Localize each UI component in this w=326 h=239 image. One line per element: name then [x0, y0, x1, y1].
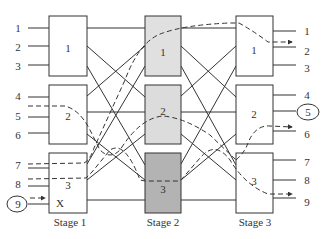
stage3-switch-2-label: 2: [251, 108, 257, 120]
input-label-4: 4: [15, 90, 21, 102]
input-labels: 1 2 3 4 5 6 7 8 9: [7, 22, 27, 212]
blocked-x-marker: X: [56, 197, 64, 209]
input-lines: [28, 28, 49, 204]
output-lines: [273, 31, 296, 198]
interstage-links-1-2: [87, 28, 145, 200]
output-label-2: 2: [304, 45, 310, 57]
input-label-8: 8: [15, 178, 21, 190]
stage1-switch-3-label: 3: [65, 179, 71, 191]
input-label-6: 6: [15, 129, 21, 141]
stage2-switch-2-label: 2: [160, 105, 166, 117]
stage3-caption: Stage 3: [239, 216, 272, 228]
output-label-8: 8: [304, 174, 310, 186]
input-label-9: 9: [15, 198, 21, 210]
input-label-3: 3: [15, 60, 21, 72]
input-label-7: 7: [15, 159, 21, 171]
stage1: 1 2 3 X: [49, 16, 87, 213]
output-label-5: 5: [305, 106, 311, 118]
output-label-4: 4: [304, 89, 310, 101]
output-labels: 1 2 3 4 5 6 7 8 9: [297, 25, 319, 208]
interstage-links-2-3: [181, 28, 236, 200]
stage2-switch-3-label: 3: [160, 183, 166, 195]
stage2-caption: Stage 2: [147, 216, 180, 228]
output-label-6: 6: [304, 128, 310, 140]
stage1-switch-1-label: 1: [65, 42, 71, 54]
output-label-1: 1: [304, 25, 310, 37]
stage1-caption: Stage 1: [54, 216, 87, 228]
input-label-5: 5: [15, 110, 21, 122]
stage3-switch-1-label: 1: [251, 44, 257, 56]
clos-network-diagram: 1 2 3 X 1 2 3 1 2 3 1 2 3 4 5: [0, 0, 326, 239]
output-label-3: 3: [304, 62, 310, 74]
stage3: 1 2 3: [236, 16, 273, 213]
stage2: 1 2 3: [145, 16, 181, 213]
input-label-2: 2: [15, 41, 21, 53]
stage2-switch-1-label: 1: [160, 46, 166, 58]
output-label-9: 9: [304, 196, 310, 208]
output-label-7: 7: [304, 156, 310, 168]
stage1-switch-2-label: 2: [65, 110, 71, 122]
input-label-1: 1: [15, 22, 21, 34]
